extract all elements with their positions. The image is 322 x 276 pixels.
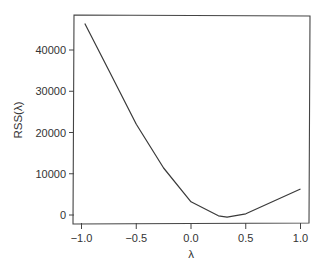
- x-tick-label: 1.0: [293, 232, 308, 244]
- y-tick-label: 10000: [35, 168, 66, 180]
- y-axis-title: RSS(λ): [12, 101, 24, 138]
- plot-frame: [73, 15, 310, 224]
- x-tick-label: −1.0: [71, 232, 93, 244]
- rss-curve: [85, 24, 301, 218]
- y-tick-label: 0: [60, 209, 66, 221]
- x-axis-title: λ: [188, 248, 194, 260]
- y-tick-label: 40000: [35, 44, 66, 56]
- x-tick-label: 0.0: [183, 232, 198, 244]
- y-axis: 010000200003000040000: [35, 44, 74, 221]
- plot-border: [73, 15, 310, 224]
- x-axis: −1.0−0.50.00.51.0: [71, 223, 309, 244]
- x-tick-label: −0.5: [125, 232, 147, 244]
- series-line: [85, 24, 301, 218]
- rss-lambda-chart: 010000200003000040000 −1.0−0.50.00.51.0 …: [0, 0, 322, 276]
- y-tick-label: 30000: [35, 85, 66, 97]
- y-tick-label: 20000: [35, 127, 66, 139]
- x-tick-label: 0.5: [238, 232, 253, 244]
